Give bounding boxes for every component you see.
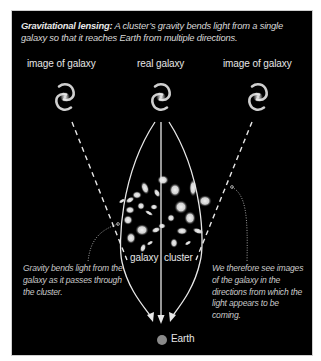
galaxy-image-right-icon xyxy=(247,82,268,112)
galaxy-image-left-icon xyxy=(54,82,75,112)
label-image-right: image of galaxy xyxy=(223,58,292,69)
label-cluster-cluster: cluster xyxy=(164,252,193,263)
label-real-galaxy: real galaxy xyxy=(137,58,184,69)
leader-lines xyxy=(88,187,247,262)
arrow-down-icon xyxy=(158,315,165,324)
galaxy-real-icon xyxy=(150,82,171,112)
label-image-left: image of galaxy xyxy=(27,58,96,69)
apparent-paths xyxy=(72,122,252,260)
note-right: We therefore see images of the galaxy in… xyxy=(212,263,308,322)
earth-icon xyxy=(157,335,167,345)
note-left: Gravity bends light from the galaxy as i… xyxy=(23,263,123,298)
label-cluster-galaxy: galaxy xyxy=(130,252,158,263)
galaxy-cluster xyxy=(118,175,212,254)
label-earth: Earth xyxy=(171,333,194,344)
